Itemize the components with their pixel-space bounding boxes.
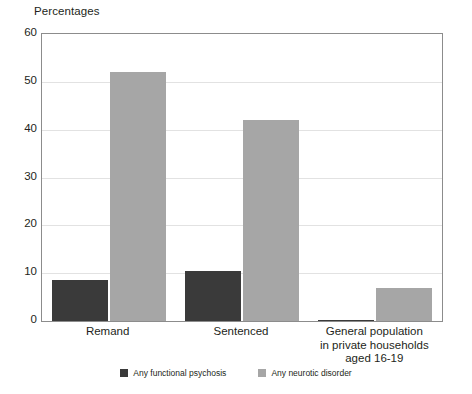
x-category-label: Sentenced [174, 325, 307, 339]
legend-swatch-icon [120, 369, 128, 377]
bar [318, 320, 374, 321]
y-axis-tick-labels: 0102030405060 [3, 33, 37, 322]
y-tick-label: 30 [9, 171, 37, 183]
x-category-label-line: Sentenced [174, 325, 307, 339]
gridline-10 [42, 273, 442, 274]
bar [185, 271, 241, 321]
x-category-label-line: in private households [308, 339, 441, 353]
chart-legend: Any functional psychosisAny neurotic dis… [0, 369, 472, 378]
gridline-20 [42, 225, 442, 226]
x-category-label: General populationin private householdsa… [308, 325, 441, 366]
x-category-label-line: aged 16-19 [308, 352, 441, 366]
bar [243, 120, 299, 321]
x-axis-category-labels: RemandSentencedGeneral populationin priv… [41, 325, 443, 371]
legend-swatch-icon [258, 369, 266, 377]
gridline-30 [42, 178, 442, 179]
x-category-label-line: Remand [41, 325, 174, 339]
gridline-50 [42, 82, 442, 83]
legend-item[interactable]: Any neurotic disorder [258, 369, 351, 378]
y-tick-label: 50 [9, 75, 37, 87]
legend-label: Any neurotic disorder [271, 369, 351, 378]
y-tick-label: 10 [9, 266, 37, 278]
y-tick-label: 20 [9, 219, 37, 231]
legend-item[interactable]: Any functional psychosis [120, 369, 226, 378]
legend-label: Any functional psychosis [133, 369, 226, 378]
gridline-40 [42, 130, 442, 131]
bar [376, 288, 432, 321]
bar [110, 72, 166, 321]
bar [52, 280, 108, 321]
bar-chart: Percentages 0102030405060 RemandSentence… [0, 0, 472, 394]
x-category-label: Remand [41, 325, 174, 339]
y-tick-label: 60 [9, 27, 37, 39]
x-category-label-line: General population [308, 325, 441, 339]
plot-area [41, 33, 443, 322]
y-tick-label: 40 [9, 123, 37, 135]
y-tick-label: 0 [9, 314, 37, 326]
chart-axis-title: Percentages [34, 5, 100, 17]
